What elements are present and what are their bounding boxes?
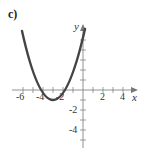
x-tick-label: 2 [100,91,105,102]
y-tick-label: -4 [69,124,77,135]
x-tick-label: -6 [16,91,24,102]
graph: c) -6 -4 -2 2 4 x -2 -4 y [0,0,145,158]
part-label: c) [8,7,17,21]
x-axis: -6 -4 -2 2 4 x [12,87,138,103]
y-axis-label: y [73,20,79,32]
y-tick-label: -2 [69,104,77,115]
parabola-curve [22,29,85,100]
x-tick-label: 4 [120,91,125,102]
x-axis-label: x [131,91,137,103]
